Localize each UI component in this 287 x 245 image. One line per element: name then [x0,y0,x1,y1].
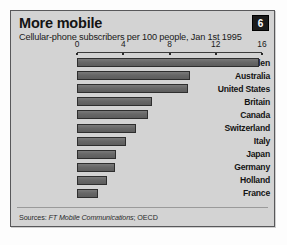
bar-row: United States [11,82,274,95]
bar-row: Sweden [11,56,274,69]
x-axis-tick-mark [261,53,263,55]
bar [77,84,188,93]
x-axis-tick-mark [122,53,124,55]
bar-row: France [11,187,274,200]
bar-category-label: Australia [208,71,274,81]
bar [77,58,259,67]
bar [77,71,190,80]
x-axis-tick-label: 0 [75,39,80,49]
x-axis-tick-label: 4 [121,39,126,49]
bar-category-label: Canada [208,110,274,120]
bar-row: Britain [11,95,274,108]
bar-category-label: United States [208,84,274,94]
x-axis-tick-labels: 0481216 [11,39,274,50]
bar [77,176,107,185]
bar [77,189,98,198]
x-axis-tick-label: 16 [257,39,266,49]
source-note: Sources: FT Mobile Communications; OECD [19,213,158,222]
bar-row: Switzerland [11,121,274,134]
bar-category-label: Germany [208,162,274,172]
source-prefix: Sources: [19,213,47,222]
bar-rows: SwedenAustraliaUnited StatesBritainCanad… [11,56,274,200]
bar-row: Italy [11,135,274,148]
bar-category-label: Britain [208,97,274,107]
x-axis-tick-mark [215,53,217,55]
bar-category-label: Holland [208,175,274,185]
bar [77,110,148,119]
chart-panel: More mobile Cellular-phone subscribers p… [10,10,275,227]
bar-row: Canada [11,108,274,121]
chart-figure: More mobile Cellular-phone subscribers p… [0,0,287,245]
bar-category-label: Japan [208,149,274,159]
bar [77,124,136,133]
bar-category-label: Italy [208,136,274,146]
bar [77,137,126,146]
bar-row: Australia [11,69,274,82]
bar [77,163,115,172]
plot-area: 0481216 SwedenAustraliaUnited StatesBrit… [11,39,274,204]
source-publisher: FT Mobile Communications [48,213,133,222]
source-suffix: ; OECD [134,213,158,222]
bar-category-label: Switzerland [208,123,274,133]
bar-category-label: France [208,188,274,198]
x-axis-tick-label: 12 [211,39,220,49]
bar-row: Holland [11,174,274,187]
bar-row: Japan [11,148,274,161]
figure-number-badge: 6 [252,15,269,31]
source-divider [17,207,268,208]
bar [77,150,116,159]
bar-row: Germany [11,161,274,174]
x-axis-tick-mark [76,53,78,55]
x-axis-tick-label: 8 [167,39,172,49]
bar [77,97,152,106]
page-title: More mobile [19,15,268,32]
x-axis-tick-mark [169,53,171,55]
